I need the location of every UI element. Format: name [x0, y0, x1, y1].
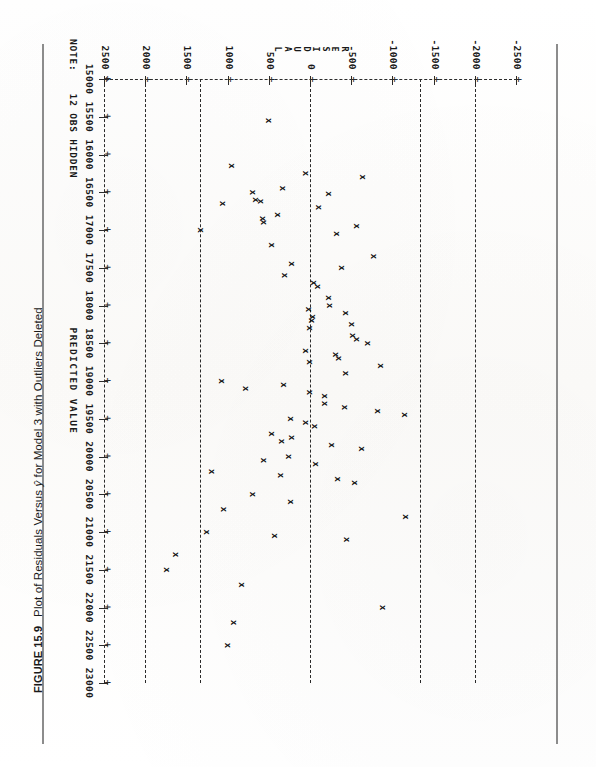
data-point: x: [337, 263, 348, 272]
data-point: x: [202, 527, 213, 536]
reference-line-2000: [145, 79, 146, 683]
note-text: 12 OBS HIDDEN: [68, 93, 79, 178]
data-point: x: [352, 221, 363, 230]
figure-frame-right-rule: [556, 44, 558, 744]
predicted-tick-label-22000: 22000: [84, 592, 95, 623]
predicted-tick-label-15000: 15000: [84, 63, 95, 94]
predicted-tick-17500: [99, 267, 108, 268]
residual-tick--2500: [516, 76, 517, 85]
predicted-tick-label-16500: 16500: [84, 176, 95, 207]
data-point: x: [341, 308, 352, 317]
residual-axis-title-letter: D: [302, 46, 312, 51]
predicted-tick-label-23000: 23000: [84, 667, 95, 698]
residual-tick-0: [310, 76, 311, 85]
predicted-tick-label-22500: 22500: [84, 629, 95, 660]
data-point: x: [286, 414, 297, 423]
plot-note: NOTE:12 OBS HIDDEN: [68, 39, 79, 178]
figure-caption-text: Plot of Residuals Versus ŷ for Model 3 w…: [32, 307, 44, 617]
data-point: x: [264, 116, 275, 125]
residual-tick-500: [269, 76, 270, 85]
data-point: x: [284, 452, 295, 461]
data-point: x: [162, 565, 173, 574]
residual-tick--1000: [392, 76, 393, 85]
caption-part-1: Plot of Residuals Versus: [32, 487, 44, 617]
data-point: x: [357, 444, 368, 453]
predicted-tick-15500: [99, 116, 108, 117]
data-point: x: [301, 168, 312, 177]
predicted-tick-22000: [99, 607, 108, 608]
data-point: x: [273, 210, 284, 219]
data-point: x: [305, 387, 316, 396]
data-point: x: [320, 399, 331, 408]
figure-caption: FIGURE 15.9 Plot of Residuals Versus ŷ f…: [23, 33, 53, 693]
data-point: x: [347, 319, 358, 328]
figure-page: FIGURE 15.9 Plot of Residuals Versus ŷ f…: [0, 0, 596, 767]
data-point: x: [248, 489, 259, 498]
data-point: x: [305, 323, 316, 332]
data-point: x: [267, 240, 278, 249]
y-hat-symbol: ŷ: [32, 481, 44, 487]
data-point: x: [217, 376, 228, 385]
predicted-tick-16500: [99, 192, 108, 193]
data-point: x: [313, 282, 324, 291]
data-point: x: [301, 346, 312, 355]
residual-tick--2000: [475, 76, 476, 85]
data-point: x: [196, 225, 207, 234]
predicted-tick-20500: [99, 494, 108, 495]
predicted-tick-19500: [99, 418, 108, 419]
data-point: x: [341, 368, 352, 377]
residual-axis-title-letter: E: [330, 46, 340, 51]
predicted-tick-label-21500: 21500: [84, 554, 95, 585]
data-point: x: [276, 470, 287, 479]
data-point: x: [314, 202, 325, 211]
residual-axis-line: 25002000150010005000-500-1000-1500-2000-…: [105, 79, 517, 80]
data-point: x: [342, 535, 353, 544]
residual-tick-1000: [228, 76, 229, 85]
data-point: x: [311, 459, 322, 468]
caption-part-2: for Model 3 with Outliers Deleted: [32, 307, 44, 480]
reference-line--2000: [475, 79, 476, 683]
predicted-tick-label-20500: 20500: [84, 478, 95, 509]
predicted-tick-label-19500: 19500: [84, 403, 95, 434]
residual-axis-title-letter: L: [273, 46, 283, 51]
predicted-tick-17000: [99, 230, 108, 231]
data-point: x: [237, 580, 248, 589]
predicted-tick-label-18500: 18500: [84, 327, 95, 358]
predicted-tick-19000: [99, 381, 108, 382]
predicted-tick-18000: [99, 305, 108, 306]
data-point: x: [277, 436, 288, 445]
data-point: x: [332, 229, 343, 238]
predicted-tick-21000: [99, 532, 108, 533]
data-point: x: [287, 259, 298, 268]
data-point: x: [363, 338, 374, 347]
residual-axis-title-letter: R: [340, 46, 350, 51]
reference-line-1340: [200, 79, 201, 683]
predicted-tick-21500: [99, 569, 108, 570]
data-point: x: [373, 406, 384, 415]
data-point: x: [218, 199, 229, 208]
predicted-tick-15000: [99, 79, 108, 80]
residual-tick-2000: [145, 76, 146, 85]
predicted-value-axis-line: 1500015500160001650017000175001800018500…: [104, 79, 105, 683]
residual-tick-label-0: 0: [306, 63, 317, 69]
residual-axis-title-letter: U: [292, 46, 302, 51]
predicted-tick-20000: [99, 456, 108, 457]
residual-axis-title: RESIDUAL: [105, 39, 517, 59]
data-point: x: [325, 301, 336, 310]
data-point: x: [256, 196, 267, 205]
data-point: x: [340, 402, 351, 411]
data-point: x: [229, 618, 240, 627]
predicted-tick-label-19000: 19000: [84, 365, 95, 396]
data-point: x: [259, 455, 270, 464]
predicted-tick-label-16000: 16000: [84, 139, 95, 170]
data-point: x: [286, 497, 297, 506]
data-point: x: [171, 550, 182, 559]
data-point: x: [207, 467, 218, 476]
data-point: x: [324, 189, 335, 198]
data-point: x: [223, 640, 234, 649]
plot-inner: xxxxxxxxxxxxxxxxxxxxxxxxxxxxxxxxxxxxxxxx…: [63, 39, 533, 729]
data-point: x: [378, 603, 389, 612]
predicted-tick-label-18000: 18000: [84, 290, 95, 321]
data-point: x: [270, 531, 281, 540]
predicted-tick-label-17500: 17500: [84, 252, 95, 283]
